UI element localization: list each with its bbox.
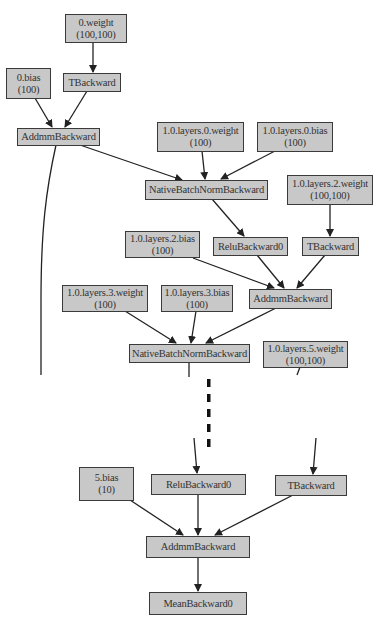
node-label: 1.0.layers.5.weight: [267, 343, 343, 355]
node-0-weight: 0.weight (100,100): [65, 14, 127, 43]
edge-l0b-bn1: [221, 151, 275, 179]
node-shape: (100): [190, 137, 212, 149]
edge-0bias-addmm: [35, 98, 52, 127]
node-layers-0-weight: 1.0.layers.0.weight (100): [157, 122, 244, 152]
edge-addmm-skip-curve: [41, 145, 56, 375]
node-layers-0-bias: 1.0.layers.0.bias (100): [257, 122, 333, 152]
node-shape: (10): [98, 484, 115, 496]
node-label: ReluBackward0: [166, 479, 231, 491]
elision-dashes: [207, 379, 211, 447]
edge-bn1-relu1: [212, 199, 244, 236]
edge-into-t3: [313, 438, 316, 474]
node-label: TBackward: [287, 480, 334, 492]
node-label: 1.0.layers.0.weight: [162, 125, 238, 137]
node-batchnorm-2: NativeBatchNormBackward: [129, 344, 250, 363]
edge-l0w-bn1: [202, 151, 205, 179]
node-label: 1.0.layers.2.bias: [130, 233, 195, 245]
edge-t3-addmm3: [215, 495, 293, 535]
edge-into-relu3: [194, 438, 197, 473]
node-tbackward-2: TBackward: [302, 237, 359, 256]
node-label: 0.bias: [17, 72, 41, 84]
node-0-bias: 0.bias (100): [6, 68, 51, 99]
edge-l3w-bn2: [125, 311, 176, 343]
node-label: AddmmBackward: [253, 293, 327, 305]
edge-b5-addmm3: [130, 500, 183, 535]
autograd-graph: 0.weight (100,100) 0.bias (100) TBackwar…: [0, 0, 381, 625]
node-layers-5-weight: 1.0.layers.5.weight (100,100): [263, 341, 348, 368]
node-label: NativeBatchNormBackward: [149, 184, 264, 196]
node-label: MeanBackward0: [163, 598, 232, 610]
node-label: 1.0.layers.0.bias: [263, 125, 328, 137]
node-label: AddmmBackward: [161, 541, 235, 553]
node-shape: (100,100): [76, 29, 115, 41]
graph-edges: [0, 0, 381, 625]
node-shape: (100): [18, 84, 40, 96]
edge-l5w-stub: [297, 367, 300, 375]
node-label: 5.bias: [95, 472, 119, 484]
edge-addmm2-bn2: [206, 308, 276, 343]
node-shape: (100,100): [286, 355, 325, 367]
node-relubackward-1: ReluBackward0: [213, 237, 288, 256]
node-batchnorm-1: NativeBatchNormBackward: [145, 180, 268, 200]
node-shape: (100,100): [310, 190, 349, 202]
node-label: 1.0.layers.2.weight: [292, 178, 368, 190]
node-5-bias: 5.bias (10): [79, 467, 134, 501]
node-meanbackward: MeanBackward0: [149, 592, 247, 615]
node-shape: (100): [284, 137, 306, 149]
edge-t2-addmm2: [297, 255, 325, 288]
node-label: AddmmBackward: [21, 131, 95, 143]
node-label: NativeBatchNormBackward: [132, 348, 247, 360]
node-label: 0.weight: [79, 17, 114, 29]
node-shape: (100): [186, 299, 208, 311]
node-shape: (100): [152, 245, 174, 257]
node-relubackward-3: ReluBackward0: [151, 474, 246, 495]
node-addmmbackward-3: AddmmBackward: [146, 536, 250, 558]
node-label: ReluBackward0: [218, 241, 283, 253]
node-tbackward-3: TBackward: [275, 475, 347, 496]
edge-l2b-addmm2: [193, 258, 274, 288]
node-label: TBackward: [307, 241, 354, 253]
node-layers-3-bias: 1.0.layers.3.bias (100): [161, 285, 233, 312]
node-label: 1.0.layers.3.weight: [67, 287, 143, 299]
node-addmmbackward-2: AddmmBackward: [249, 289, 332, 309]
node-label: 1.0.layers.3.bias: [165, 287, 230, 299]
node-layers-2-bias: 1.0.layers.2.bias (100): [125, 231, 200, 258]
node-label: TBackward: [68, 77, 115, 89]
node-tbackward-1: TBackward: [63, 73, 121, 92]
node-shape: (100): [94, 299, 116, 311]
edge-l3b-bn2: [191, 311, 196, 343]
node-layers-2-weight: 1.0.layers.2.weight (100,100): [287, 175, 373, 205]
node-addmmbackward-1: AddmmBackward: [17, 128, 100, 146]
node-layers-3-weight: 1.0.layers.3.weight (100): [62, 285, 148, 312]
edge-tbackward-addmm: [65, 91, 87, 127]
